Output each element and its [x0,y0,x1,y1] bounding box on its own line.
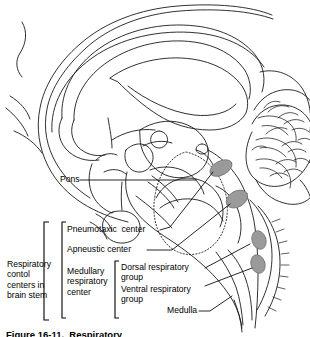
pneumotaxic-center-oval [207,156,235,180]
leader-dorsal-group [205,244,250,268]
cortex-inner-outline [45,10,273,198]
optic-chiasm [104,170,126,174]
label-apneustic-center: Apneustic center [67,244,131,254]
dorsal-respiratory-group-oval [249,229,268,251]
sulcus-hint-1 [17,22,26,77]
figure-caption: Figure 16-11. Respiratory [6,329,122,337]
infundibulum-stalk [121,182,122,210]
septum-line [108,118,112,148]
label-respiratory-control-centers: Respiratory contol centers in brain stem [7,259,51,301]
callosum-genu-inner [72,120,105,156]
ventricle-inner-line [128,86,236,116]
shaded-nuclei-group [207,156,268,275]
sulcus-hint-2 [10,96,30,119]
label-pneumotaxic-center: Pneumotaxic center [67,224,145,234]
lamina-terminalis [89,164,112,213]
interthalamic-adhesion [151,131,168,148]
label-dorsal-respiratory-group: Dorsal respiratory group [121,262,189,283]
anatomical-figure: Pons Pneumotaxic center Apneustic center… [0,0,310,337]
corpus-callosum-outer [62,25,264,118]
leader-apneustic [147,204,230,250]
label-medulla: Medulla [167,305,197,315]
lateral-ventricle-outline [110,58,248,130]
arbor-vitae-branches [252,101,310,188]
label-medullary-respiratory-center: Medullary respiratory center [67,266,108,297]
thalamus-detail-1 [143,141,172,146]
cingulate-gyrus [52,32,264,132]
callosum-genu [59,118,99,161]
tectum-detail [196,150,213,165]
anterior-commissure [96,154,117,160]
bracket-medullary-groups [115,261,119,318]
peduncle-detail-2 [148,182,174,208]
bracket-inner-centers [62,222,66,318]
cerebellum-lower-outline [256,180,310,204]
label-pons: Pons [60,174,80,184]
medulla-outline [228,250,252,320]
leader-medulla [199,296,232,311]
leader-pneumotaxic [160,172,213,230]
sulcus-hint-4 [14,131,42,153]
sulcus-hint-3 [6,108,28,136]
fornix-line [112,129,155,140]
ventral-respiratory-group-oval [248,253,267,275]
label-ventral-respiratory-group: Ventral respiratory group [121,284,191,305]
hypothalamus-outline [125,144,153,172]
